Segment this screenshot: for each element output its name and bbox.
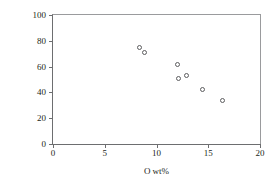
y-axis-tick-label: 60 <box>37 62 46 71</box>
y-axis-tick-label: 80 <box>37 36 46 45</box>
y-axis-tick <box>49 118 53 119</box>
data-point <box>175 62 180 67</box>
y-axis-tick <box>49 92 53 93</box>
y-axis-tick-label: 40 <box>37 88 46 97</box>
y-axis-tick <box>49 15 53 16</box>
y-axis-tick-label: 0 <box>42 140 47 149</box>
data-point <box>137 45 142 50</box>
plot-frame: 02040608010005101520 <box>52 14 261 145</box>
data-point <box>200 87 205 92</box>
y-axis-tick <box>49 67 53 68</box>
y-axis-tick-label: 100 <box>33 11 47 20</box>
y-axis-tick <box>49 41 53 42</box>
y-axis-tick-label: 20 <box>37 114 46 123</box>
scatter-chart: 02040608010005101520 O wt% βSiC wt% <box>0 0 279 189</box>
data-point <box>142 50 147 55</box>
x-axis-tick-label: 20 <box>256 149 265 158</box>
x-axis-label: O wt% <box>52 166 261 176</box>
data-point <box>176 76 181 81</box>
data-point <box>220 98 225 103</box>
data-point <box>184 73 189 78</box>
x-axis-tick-label: 10 <box>152 149 161 158</box>
x-axis-tick-label: 0 <box>51 149 56 158</box>
x-axis-tick-label: 5 <box>103 149 108 158</box>
x-axis-tick-label: 15 <box>204 149 213 158</box>
plot-area <box>53 15 260 144</box>
